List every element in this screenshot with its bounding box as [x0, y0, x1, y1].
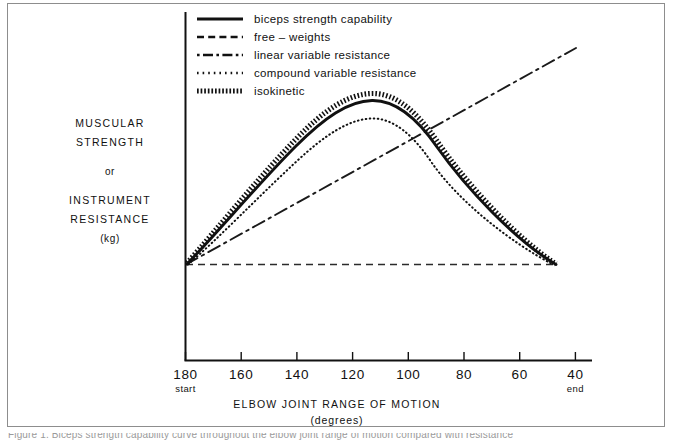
x-tick-label-60: 60 [498, 367, 542, 382]
series-compound-variable-resistance [188, 118, 553, 264]
legend-item-linear-variable-resistance: linear variable resistance [196, 46, 526, 64]
legend-label-linear-variable-resistance: linear variable resistance [254, 48, 390, 62]
legend-swatch-solid-icon [196, 12, 244, 26]
y-axis-title: MUSCULAR STRENGTH or INSTRUMENT RESISTAN… [52, 114, 168, 248]
y-axis-title-line-3: or [52, 162, 168, 181]
y-axis-title-line-6: (kg) [52, 229, 168, 248]
legend-swatch-dotted-icon [196, 66, 244, 80]
x-tick-label-40: 40 [553, 367, 597, 382]
y-axis-title-line-1: MUSCULAR [52, 114, 168, 133]
legend-label-free-weights: free – weights [254, 30, 331, 44]
legend-swatch-dashdot-icon [196, 48, 244, 62]
series-isokinetic [187, 93, 556, 264]
x-tick-sublabel-start: start [164, 383, 208, 394]
x-axis-units: (degrees) [0, 414, 674, 426]
chart-legend: biceps strength capability free – weight… [196, 10, 526, 100]
y-axis-title-spacer-b [52, 181, 168, 191]
legend-swatch-dashed-icon [196, 30, 244, 44]
x-tick-label-80: 80 [442, 367, 486, 382]
figure-root: biceps strength capability free – weight… [0, 0, 674, 442]
legend-item-free-weights: free – weights [196, 28, 526, 46]
legend-swatch-thickdotted-icon [196, 84, 244, 98]
figure-caption: Figure 1. Biceps strength capability cur… [8, 433, 513, 440]
x-axis-ticks [186, 352, 576, 361]
y-axis-title-line-2: STRENGTH [52, 133, 168, 152]
legend-label-biceps-strength-capability: biceps strength capability [254, 12, 392, 26]
legend-label-compound-variable-resistance: compound variable resistance [254, 66, 417, 80]
figure-caption-strip: Figure 1. Biceps strength capability cur… [8, 433, 666, 442]
y-axis-title-spacer-a [52, 152, 168, 162]
x-tick-label-100: 100 [386, 367, 430, 382]
x-tick-label-120: 120 [331, 367, 375, 382]
legend-item-compound-variable-resistance: compound variable resistance [196, 64, 526, 82]
legend-item-isokinetic: isokinetic [196, 82, 526, 100]
x-tick-label-140: 140 [275, 367, 319, 382]
series-biceps-strength-capability [187, 100, 556, 264]
legend-label-isokinetic: isokinetic [254, 84, 305, 98]
x-tick-label-160: 160 [219, 367, 263, 382]
x-tick-label-180: 180 [164, 367, 208, 382]
x-tick-sublabel-end: end [553, 383, 597, 394]
y-axis-title-line-4: INSTRUMENT [52, 191, 168, 210]
x-axis-title: ELBOW JOINT RANGE OF MOTION [0, 398, 674, 410]
legend-item-biceps-strength-capability: biceps strength capability [196, 10, 526, 28]
y-axis-title-line-5: RESISTANCE [52, 210, 168, 229]
